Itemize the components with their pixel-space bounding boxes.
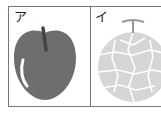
apple-illustration [0,0,90,110]
melon-illustration [90,0,161,110]
